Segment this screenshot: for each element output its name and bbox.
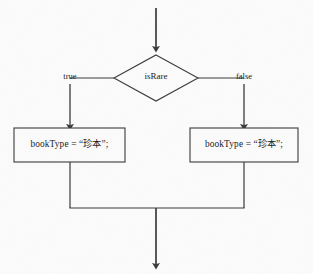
true-statement-label: bookType = “珍本”; <box>14 140 125 149</box>
flowchart-canvas: isRare true false bookType = “珍本”; bookT… <box>0 0 313 274</box>
flowchart-graphics <box>0 0 313 274</box>
false-statement-label: bookType = “珍本”; <box>190 140 298 149</box>
true-edge-label: true <box>48 72 92 81</box>
false-edge-label: false <box>222 72 266 81</box>
decision-label: isRare <box>114 72 198 81</box>
